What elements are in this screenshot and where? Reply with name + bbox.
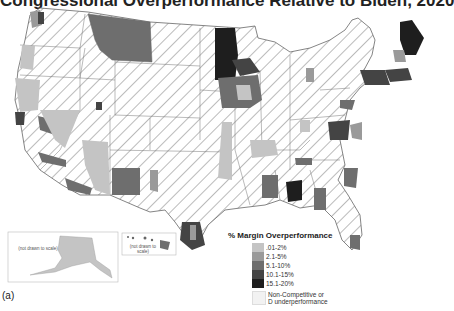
legend-label: 5.1-10%	[266, 262, 290, 269]
map-legend: % Margin Overperformance .01-2% 2.1-5% 5…	[252, 231, 332, 305]
legend-item-non-competitive: Non-Competitive or D underperformance	[252, 291, 332, 305]
figure-caption: (a)	[2, 290, 14, 301]
legend-label: 2.1-5%	[266, 253, 287, 260]
legend-item: .01-2%	[252, 243, 332, 252]
legend-title: % Margin Overperformance	[228, 231, 332, 240]
legend-label: 15.1-20%	[266, 280, 294, 287]
legend-label: .01-2%	[266, 244, 287, 251]
legend-item: 10.1-15%	[252, 270, 332, 279]
legend-swatch	[252, 252, 264, 261]
legend-label: Non-Competitive or D underperformance	[268, 291, 328, 305]
alaska-inset	[8, 232, 118, 282]
legend-swatch	[252, 291, 266, 305]
legend-swatch	[252, 279, 264, 288]
legend-swatch	[252, 270, 264, 279]
legend-swatch	[252, 261, 264, 270]
legend-item: 2.1-5%	[252, 252, 332, 261]
hawaii-scale-note: (not drawn to scale)	[128, 244, 158, 254]
legend-label: 10.1-15%	[266, 271, 294, 278]
alaska-scale-note: (not drawn to scale)	[18, 246, 58, 251]
legend-item: 5.1-10%	[252, 261, 332, 270]
legend-item: 15.1-20%	[252, 279, 332, 288]
legend-swatch	[252, 243, 264, 252]
